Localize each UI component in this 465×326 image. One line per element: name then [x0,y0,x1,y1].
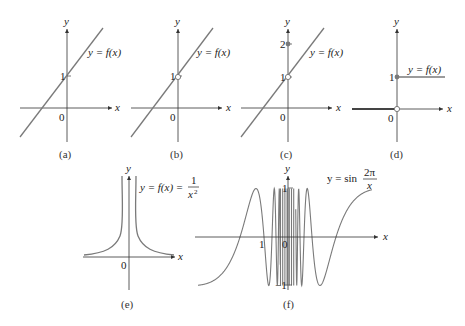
x-label: x [382,230,388,242]
tick-label-1: 1 [389,71,395,83]
function-label: y = f(x) [87,46,121,59]
caption-e: (e) [121,298,134,311]
filled-point [286,42,291,47]
function-label: y = f(x) [309,46,343,59]
x-label: x [446,102,452,114]
curve-left [84,176,123,255]
tick-label-1: 1 [280,71,286,83]
fraction-exponent: 2 [194,188,198,196]
origin-label: 0 [59,111,65,123]
caption-b: (b) [170,148,183,161]
x-label: x [114,101,120,113]
origin-label: 0 [388,112,394,124]
fraction-numerator: 1 [191,174,197,186]
y-label: y [125,162,131,174]
caption-a: (a) [59,148,72,161]
panel-f: y x 1 −1 1 0 y = sin 2π x (f) [195,162,388,311]
panel-d: y x 1 0 y = f(x) (d) [352,15,452,161]
hole-point [175,74,180,79]
tick-label-2: 2 [280,38,286,50]
panel-b: y x 1 0 y = f(x) (b) [131,15,231,161]
figure-canvas: y x 1 0 y = f(x) (a) y x 1 0 y = f(x) (b… [0,0,465,326]
x-label: x [225,101,231,113]
y-label: y [63,15,69,27]
tick-label-1: 1 [60,70,66,82]
fraction-denominator: x [366,179,372,191]
tick-label-1: 1 [282,182,288,194]
tick-label-neg1: −1 [275,279,287,291]
tick-label-1: 1 [170,70,176,82]
y-label: y [174,15,180,27]
origin-label: 0 [282,238,288,250]
x-label: x [177,250,183,262]
y-label: y [284,15,290,27]
panel-a: y x 1 0 y = f(x) (a) [20,15,121,161]
x-label: x [335,101,341,113]
fraction-denominator: x [187,188,193,200]
caption-d: (d) [390,148,403,161]
y-label: y [393,15,399,27]
x-tick-label-1: 1 [259,238,265,250]
function-label: y = f(x) [407,63,441,76]
origin-label: 0 [280,111,286,123]
panel-e: y x 0 y = f(x) = 1 x 2 (e) [83,162,199,311]
fraction-numerator: 2π [364,166,376,178]
function-label: y = f(x) = [139,181,183,194]
hole-point [394,106,399,111]
panel-c: y x 1 2 0 y = f(x) (c) [241,15,343,161]
origin-label: 0 [121,259,127,271]
function-label: y = f(x) [196,46,230,59]
y-label: y [284,162,290,174]
filled-point [395,75,400,80]
caption-f: (f) [283,298,294,311]
hole-point [285,74,290,79]
caption-c: (c) [280,148,293,161]
function-label: y = sin [327,172,358,184]
origin-label: 0 [170,111,176,123]
